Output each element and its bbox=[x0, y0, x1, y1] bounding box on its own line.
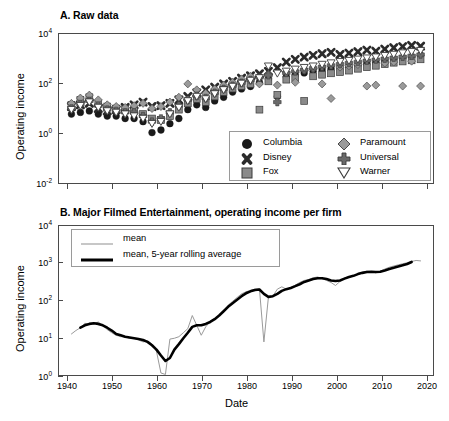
legend-line-rolling-average bbox=[80, 251, 114, 269]
legend-label-mean: mean bbox=[123, 233, 146, 243]
panel-b-legend: mean mean, 5-year rolling average bbox=[71, 229, 280, 267]
legend-label-rolling-average: mean, 5-year rolling average bbox=[123, 249, 241, 259]
figure-container: A. Raw data Operating income 104 102 100… bbox=[0, 0, 449, 421]
panel-b-line-layer bbox=[0, 0, 449, 421]
